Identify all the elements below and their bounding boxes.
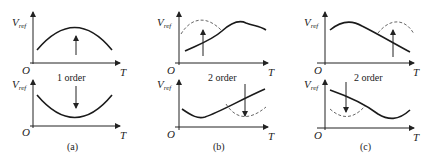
origin-label: O	[167, 64, 175, 76]
y-axis-label: Vref	[304, 78, 319, 92]
panel-a-top-plot: Vref O T	[12, 12, 127, 78]
origin-label: O	[22, 64, 30, 76]
panel-a-bottom-plot: Vref O T	[12, 78, 127, 141]
x-axis-label: T	[120, 129, 127, 141]
caption: (c)	[360, 141, 371, 153]
shifted-curve	[330, 90, 410, 118]
caption: (b)	[213, 141, 225, 153]
origin-label: O	[314, 129, 322, 141]
x-axis-label: T	[268, 66, 275, 78]
dashed-reference-curve	[330, 106, 365, 117]
x-axis-label: T	[268, 130, 275, 142]
order-label: 2 order	[354, 72, 383, 83]
sine-curve	[37, 28, 112, 51]
panel-b-bottom-plot: Vref O T	[157, 78, 275, 142]
shifted-curve	[182, 89, 265, 118]
sine-curve	[37, 95, 112, 118]
panel-b: Vref O T 2 order Vref O T (b)	[157, 12, 275, 153]
y-axis-label: Vref	[12, 78, 27, 92]
y-axis-label: Vref	[304, 16, 319, 30]
y-axis-label: Vref	[12, 16, 27, 30]
shifted-curve	[185, 22, 266, 51]
caption: (a)	[67, 141, 78, 153]
x-axis-label: T	[413, 131, 420, 143]
shifted-curve	[330, 22, 410, 52]
x-axis-label: T	[413, 66, 420, 78]
origin-label: O	[22, 126, 30, 138]
y-axis-label: Vref	[157, 16, 172, 30]
panel-b-top-plot: Vref O T	[157, 12, 275, 78]
panel-a: Vref O T 1 order Vref O T (a)	[12, 12, 127, 153]
order-label: 1 order	[57, 72, 86, 83]
origin-label: O	[167, 128, 175, 140]
vref-order-diagram: Vref O T 1 order Vref O T (a) Vref O T	[0, 0, 431, 164]
dashed-reference-curve	[181, 20, 222, 34]
dashed-reference-curve	[226, 104, 266, 117]
panel-c-bottom-plot: Vref O T	[304, 78, 420, 143]
origin-label: O	[314, 64, 322, 76]
y-axis-label: Vref	[157, 78, 172, 92]
dashed-reference-curve	[378, 22, 414, 34]
panel-c: Vref O T 2 order Vref O T (c)	[304, 12, 420, 153]
x-axis-label: T	[120, 66, 127, 78]
panel-c-top-plot: Vref O T	[304, 12, 420, 78]
order-label: 2 order	[208, 72, 237, 83]
